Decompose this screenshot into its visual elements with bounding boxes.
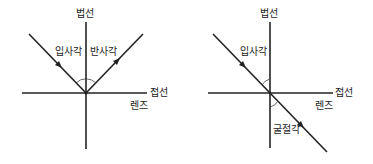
refraction-diagram <box>208 22 333 152</box>
normal-label: 법선 <box>260 9 278 19</box>
normal-label: 법선 <box>76 9 94 19</box>
incident-angle-arc <box>262 79 270 85</box>
reflection-diagram <box>22 22 147 149</box>
reflected-angle-label: 반사각 <box>90 47 117 57</box>
lens-label: 렌즈 <box>130 101 148 111</box>
reflected-ray <box>86 34 143 93</box>
refracted-angle-label: 굴절각 <box>273 125 300 135</box>
center-point <box>85 92 88 95</box>
tangent-label: 접선 <box>335 88 353 98</box>
incident-angle-label: 입사각 <box>240 47 267 57</box>
optics-diagrams <box>0 0 373 164</box>
incident-angle-label: 입사각 <box>55 47 82 57</box>
tangent-label: 접선 <box>150 88 168 98</box>
lens-label: 렌즈 <box>315 101 333 111</box>
refracted-angle-arc <box>270 101 278 107</box>
